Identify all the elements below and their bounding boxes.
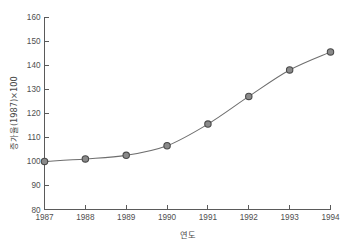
axes-group [45, 17, 331, 210]
x-tick-label: 1987 [35, 213, 54, 222]
chart-container: 8090100110120130140150160 19871988198919… [0, 0, 350, 250]
data-point-marker: 1993: 138 [286, 67, 292, 73]
y-tick-label: 140 [27, 61, 41, 70]
y-tick-label: 150 [27, 37, 41, 46]
data-point-marker: 1992: 127 [246, 93, 252, 99]
data-point-marker: 1987: 100 [41, 158, 47, 164]
line-chart-plot: 8090100110120130140150160 19871988198919… [0, 0, 350, 250]
x-tick-label: 1990 [158, 213, 177, 222]
y-tick-label: 90 [31, 181, 41, 190]
y-tick-label: 120 [27, 109, 41, 118]
x-tick-label: 1994 [321, 213, 340, 222]
x-axis-title: 연도 [180, 230, 196, 240]
x-tick-label: 1993 [281, 213, 300, 222]
y-tick-label: 160 [27, 13, 41, 22]
x-tick-label: 1992 [240, 213, 259, 222]
y-axis-tick-group: 8090100110120130140150160 [27, 13, 49, 215]
y-axis-title: 증가율(1987)×100 [9, 76, 19, 150]
y-tick-label: 110 [27, 133, 40, 142]
x-tick-label: 1988 [76, 213, 95, 222]
data-point-marker: 1989: 102.5 [123, 152, 129, 158]
x-tick-label: 1989 [117, 213, 136, 222]
data-point-marker: 1988: 101 [82, 156, 88, 162]
data-point-marker: 1991: 115.5 [205, 121, 211, 127]
data-point-marker: 1994: 145.5 [327, 49, 333, 55]
x-axis-tick-group: 19871988198919901991199219931994 [35, 205, 340, 222]
y-tick-label: 100 [27, 157, 41, 166]
data-point-group: 1987: 1001988: 1011989: 102.51990: 106.5… [41, 49, 333, 165]
x-tick-label: 1991 [199, 213, 218, 222]
data-point-marker: 1990: 106.5 [164, 143, 170, 149]
y-tick-label: 130 [27, 85, 41, 94]
